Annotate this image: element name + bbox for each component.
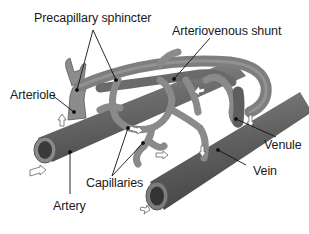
label-vein: Vein	[253, 164, 277, 178]
label-artery: Artery	[53, 199, 86, 213]
label-capillaries: Capillaries	[86, 176, 143, 190]
arrow-up-icon	[58, 114, 66, 126]
arrow-out-icon	[140, 205, 150, 214]
arrow-right-icon	[156, 151, 168, 159]
label-arteriole: Arteriole	[10, 88, 56, 102]
label-precapillary-sphincter: Precapillary sphincter	[34, 11, 151, 25]
capillary-bed-diagram: Precapillary sphincter Arteriovenous shu…	[0, 0, 309, 234]
arrow-right-icon	[30, 165, 46, 176]
venule-vessel	[238, 92, 239, 122]
label-venule: Venule	[264, 138, 302, 152]
label-arteriovenous-shunt: Arteriovenous shunt	[172, 24, 281, 38]
